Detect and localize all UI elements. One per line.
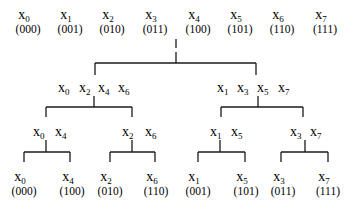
top-node-4: x4 (100) [186, 7, 211, 36]
svg-text:x0: x0 [14, 169, 26, 186]
svg-text:x2: x2 [100, 169, 112, 186]
top-node-5: x5 (101) [228, 7, 253, 36]
top-node-1: x1 (001) [58, 7, 83, 36]
bottom-node-4: x1 (001) [186, 169, 211, 198]
svg-text:x7: x7 [318, 169, 330, 186]
svg-text:(000): (000) [12, 185, 37, 198]
level3-group-0-4: x0 x4 [24, 124, 70, 162]
bottom-node-3: x6 (110) [144, 169, 169, 198]
svg-text:x4: x4 [62, 169, 74, 186]
svg-text:x5: x5 [230, 7, 242, 24]
top-node-6: x6 (110) [270, 7, 295, 36]
svg-text:(000): (000) [16, 23, 41, 36]
svg-text:(100): (100) [60, 185, 85, 198]
svg-text:x1 x5: x1 x5 [210, 124, 243, 142]
svg-text:(101): (101) [234, 185, 259, 198]
level3-group-3-7: x3 x7 [281, 124, 328, 162]
svg-text:x2 x6: x2 x6 [122, 124, 157, 142]
level3-group-2-6: x2 x6 [110, 124, 157, 162]
svg-text:(001): (001) [186, 185, 211, 198]
top-node-7: x7 (111) [313, 7, 337, 36]
svg-text:x1: x1 [188, 169, 200, 186]
bottom-node-2: x2 (010) [98, 169, 123, 198]
svg-text:x5: x5 [236, 169, 248, 186]
svg-text:x6: x6 [272, 7, 284, 24]
svg-text:x0 x2 x4 x6: x0 x2 x4 x6 [58, 80, 130, 98]
svg-text:x3: x3 [273, 169, 285, 186]
svg-text:(110): (110) [270, 23, 295, 36]
bottom-node-5: x5 (101) [234, 169, 259, 198]
bottom-node-7: x7 (111) [316, 169, 340, 198]
svg-text:x1: x1 [60, 7, 72, 24]
svg-text:x0: x0 [18, 7, 30, 24]
split-tree-diagram: x0 (000) x1 (001) x2 (010) x3 (011) x4 (… [0, 0, 355, 209]
top-node-2: x2 (010) [100, 7, 125, 36]
svg-text:x1 x3 x5 x7: x1 x3 x5 x7 [217, 80, 290, 98]
svg-text:(111): (111) [316, 185, 340, 198]
svg-text:(011): (011) [271, 185, 296, 198]
svg-text:x6: x6 [146, 169, 158, 186]
level3-group-1-5: x1 x5 [198, 124, 245, 162]
top-node-0: x0 (000) [16, 7, 41, 36]
level2-odd-group: x1 x3 x5 x7 [217, 80, 303, 117]
svg-text:x4: x4 [188, 7, 200, 24]
bottom-row: x0 (000) x4 (100) x2 (010) x6 (110) x1 (… [12, 169, 341, 198]
svg-text:x7: x7 [315, 7, 327, 24]
svg-text:x3: x3 [145, 7, 157, 24]
svg-text:x0 x4: x0 x4 [33, 124, 67, 142]
svg-text:(011): (011) [143, 23, 168, 36]
bottom-node-1: x4 (100) [60, 169, 85, 198]
svg-text:x3 x7: x3 x7 [290, 124, 322, 142]
svg-text:(111): (111) [313, 23, 337, 36]
bottom-node-0: x0 (000) [12, 169, 37, 198]
svg-text:(101): (101) [228, 23, 253, 36]
svg-text:(110): (110) [144, 185, 169, 198]
top-node-3: x3 (011) [143, 7, 168, 36]
bottom-node-6: x3 (011) [271, 169, 296, 198]
svg-text:(010): (010) [100, 23, 125, 36]
top-row: x0 (000) x1 (001) x2 (010) x3 (011) x4 (… [16, 7, 338, 36]
level2-even-group: x0 x2 x4 x6 [46, 80, 132, 117]
svg-text:(010): (010) [98, 185, 123, 198]
svg-text:(001): (001) [58, 23, 83, 36]
svg-text:x2: x2 [102, 7, 114, 24]
root-connector [95, 39, 256, 75]
svg-text:(100): (100) [186, 23, 211, 36]
